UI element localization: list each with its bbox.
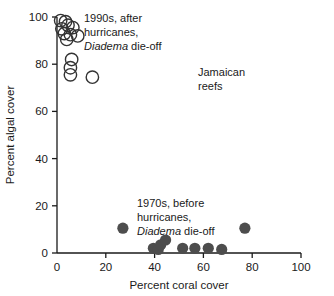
annotation-1970s-line1: 1970s, before	[137, 197, 204, 209]
data-point-filled	[203, 243, 214, 254]
y-tick-label: 40	[35, 153, 48, 165]
annotation-1970s-line3-rest: die-off	[181, 225, 215, 237]
annotation-1990s-line2: hurricanes,	[84, 26, 138, 38]
y-tick-label: 0	[42, 247, 48, 259]
data-point-filled	[177, 243, 188, 254]
y-tick-label: 80	[35, 58, 48, 70]
chart-canvas: 020406080100 020406080100 Percent coral …	[0, 0, 334, 296]
x-tick-label: 100	[291, 261, 310, 273]
annotation-1990s-line3-rest: die-off	[128, 40, 162, 52]
y-tick-label: 100	[29, 11, 48, 23]
plot-background	[0, 0, 334, 296]
annotation-1990s-genus: Diadema	[84, 40, 128, 52]
scatter-plot-figure: 020406080100 020406080100 Percent coral …	[0, 0, 334, 296]
annotation-1970s-line2: hurricanes,	[137, 211, 191, 223]
x-axis-title: Percent coral cover	[129, 279, 228, 291]
annotation-1970s-genus: Diadema	[137, 225, 181, 237]
x-tick-label: 80	[246, 261, 259, 273]
y-tick-label: 20	[35, 200, 48, 212]
data-point-filled	[216, 244, 227, 255]
x-tick-label: 0	[54, 261, 60, 273]
data-point-filled	[239, 223, 250, 234]
annotation-1990s-line1: 1990s, after	[84, 12, 142, 24]
data-point-filled	[117, 223, 128, 234]
y-tick-label: 60	[35, 105, 48, 117]
y-axis-title: Percent algal cover	[4, 86, 16, 185]
x-tick-label: 40	[148, 261, 161, 273]
data-point-filled	[189, 243, 200, 254]
x-tick-label: 20	[99, 261, 112, 273]
annotation-1970s-line3: Diadema die-off	[137, 225, 215, 237]
annotation-jamaican-line1: Jamaican	[198, 66, 245, 78]
annotation-jamaican-line2: reefs	[198, 80, 223, 92]
x-tick-label: 60	[197, 261, 210, 273]
annotation-1990s-line3: Diadema die-off	[84, 40, 162, 52]
